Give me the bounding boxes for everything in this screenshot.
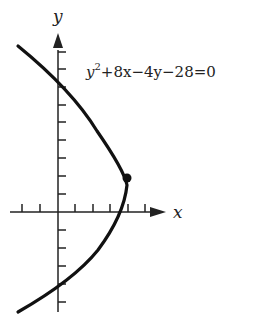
y-axis-arrow-icon: [53, 33, 63, 48]
parabola-curve: [18, 46, 127, 312]
y-axis-label: y: [52, 6, 63, 26]
parabola-diagram: x y y2+8x−4y−28=0: [0, 0, 255, 325]
vertex-point: [123, 174, 132, 183]
x-axis-label: x: [173, 202, 183, 222]
equation-label: y2+8x−4y−28=0: [85, 61, 216, 81]
x-axis: [10, 204, 155, 212]
x-axis-arrow-icon: [150, 207, 166, 217]
